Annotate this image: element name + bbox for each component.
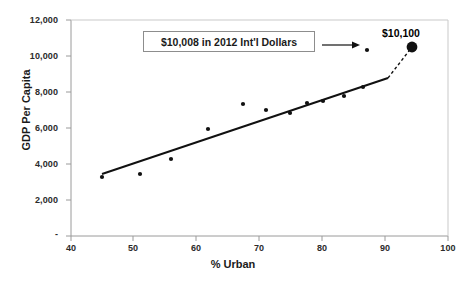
data-point — [342, 94, 346, 98]
x-tick-label: 100 — [433, 243, 463, 253]
scatter-chart: 12,000 10,000 8,000 6,000 4,000 2,000 - … — [0, 0, 466, 282]
plot-frame — [71, 20, 448, 236]
data-point — [138, 172, 142, 176]
x-tick-marks — [71, 236, 448, 241]
data-point — [206, 127, 210, 131]
y-tick-label: 4,000 — [12, 159, 58, 169]
y-tick-label: 2,000 — [12, 195, 58, 205]
x-tick-label: 40 — [56, 243, 86, 253]
y-axis-title: GDP Per Capita — [20, 40, 32, 180]
x-tick-label: 90 — [370, 243, 400, 253]
y-tick-label: 6,000 — [12, 123, 58, 133]
x-tick-label: 80 — [307, 243, 337, 253]
data-point — [361, 85, 365, 89]
data-point — [100, 175, 104, 179]
x-tick-label: 50 — [118, 243, 148, 253]
annotation-callout-text: $10,008 in 2012 Int'l Dollars — [161, 36, 297, 48]
y-tick-label: 12,000 — [12, 15, 58, 25]
trendline-solid — [102, 78, 388, 174]
annotation-arrow — [322, 42, 360, 49]
data-point — [321, 99, 325, 103]
data-point — [169, 157, 173, 161]
y-tick-label: 10,000 — [12, 51, 58, 61]
data-point — [305, 101, 309, 105]
data-point — [264, 108, 268, 112]
data-point — [241, 102, 245, 106]
y-tick-label: - — [12, 229, 58, 239]
x-axis-title: % Urban — [0, 258, 466, 270]
annotation-callout-box: $10,008 in 2012 Int'l Dollars — [143, 31, 315, 52]
highlight-data-point — [407, 42, 418, 53]
data-points — [100, 48, 369, 179]
y-tick-label: 8,000 — [12, 87, 58, 97]
x-tick-label: 70 — [244, 243, 274, 253]
trendline-dashed — [388, 47, 412, 78]
data-point — [288, 111, 292, 115]
x-tick-label: 60 — [181, 243, 211, 253]
data-point — [365, 48, 369, 52]
highlight-point-label: $10,100 — [382, 27, 420, 39]
y-tick-marks — [66, 20, 71, 236]
